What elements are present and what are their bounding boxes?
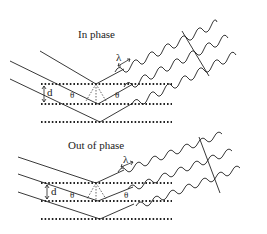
outgoing-waves — [118, 132, 240, 206]
spacing-label: d — [47, 86, 53, 98]
theta-label-left: θ — [70, 90, 74, 100]
outgoing-waves — [115, 20, 236, 105]
incident-rays — [10, 51, 100, 122]
in-phase-title: In phase — [78, 28, 115, 40]
theta-label-right: θ — [124, 190, 128, 200]
theta-label-left: θ — [70, 190, 74, 200]
wavelength-label: λ — [116, 51, 121, 63]
out-of-phase-title: Out of phase — [68, 139, 124, 151]
spacing-label: d — [51, 185, 57, 197]
wavelength-label: λ — [123, 153, 128, 165]
spacing-arrow — [45, 185, 49, 199]
spacing-arrow — [42, 86, 46, 102]
bragg-diffraction-diagram — [0, 0, 267, 234]
in-phase-panel — [10, 20, 236, 122]
wavefront-line — [182, 31, 209, 76]
out-of-phase-panel — [18, 132, 240, 219]
incident-rays — [18, 157, 100, 219]
theta-label-right: θ — [115, 90, 119, 100]
